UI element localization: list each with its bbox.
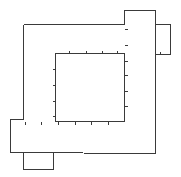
wall-tick-marks <box>26 30 161 125</box>
outer-wall-outline <box>11 11 156 154</box>
bottom-side-annex <box>24 153 54 170</box>
diagram-svg <box>0 0 181 177</box>
right-side-annex <box>156 25 171 55</box>
inner-square-room <box>56 54 125 122</box>
floor-plan-diagram <box>0 0 181 177</box>
